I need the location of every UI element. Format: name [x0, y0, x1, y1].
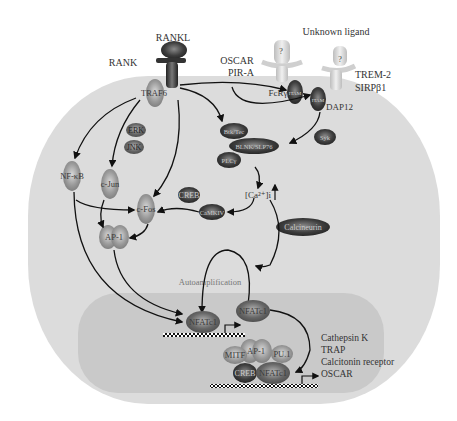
mitf-label: MITF: [225, 350, 246, 360]
sirpb1-label: SIRPβ1: [355, 82, 386, 93]
blnk-slp76-label: BLNK/SLP76: [235, 143, 273, 150]
plcg-label: PLCγ: [222, 157, 237, 164]
rankl-label: RANKL: [156, 32, 190, 43]
calcium-label: [Ca²⁺]i: [245, 190, 271, 200]
nfkb-label: NF-κB: [60, 171, 84, 181]
gene-trap: TRAP: [321, 345, 345, 355]
trem2-label: TREM-2: [355, 69, 391, 80]
oscar-label: OSCAR: [220, 55, 254, 66]
cjun-label: c-Jun: [101, 179, 120, 189]
dna-strand-1: [163, 333, 245, 337]
dna-strand-2: [210, 384, 318, 388]
erk-label: ERK: [128, 126, 144, 135]
question-mark-1: ?: [279, 47, 283, 56]
camkiv-label: CaMKIV: [200, 209, 225, 216]
rank-stem: [166, 62, 178, 88]
itam-label-2: ITAM: [312, 98, 325, 103]
jnk-label: JNK: [127, 143, 142, 152]
calcineurin-label: Calcineurin: [284, 223, 321, 232]
rankl-ligand: [161, 41, 187, 59]
unknown-ligand-label: Unknown ligand: [303, 26, 370, 37]
btk-tec-label: Btk/Tec: [224, 128, 245, 135]
gene-calcitonin-receptor: Calcitonin receptor: [321, 357, 395, 367]
rank-label: RANK: [109, 57, 138, 68]
pathway-diagram: RANKL RANK ? OSCAR PIR-A Unknown ligand …: [0, 0, 457, 421]
pira-label: PIR-A: [228, 67, 255, 78]
creb-nuclear-label: CREB: [235, 369, 256, 378]
pu1-label: PU.1: [273, 349, 290, 359]
ap1-nuclear-label: AP-1: [247, 346, 265, 356]
traf6-label: TRAF6: [141, 88, 167, 98]
itam-label-1: ITAM: [289, 91, 302, 96]
autoamplification-label: Autoamplification: [179, 277, 242, 287]
dap12-label: DAP12: [326, 102, 353, 112]
gene-cathepsin-k: Cathepsin K: [321, 333, 368, 343]
nfatc1-label-1: NFATc1: [189, 317, 217, 327]
nfatc1-label-3: NFATc1: [259, 368, 287, 378]
syk-label: Syk: [320, 134, 331, 141]
cfos-label: c-Fos: [137, 204, 156, 214]
question-mark-2: ?: [338, 55, 342, 64]
creb-label: CREB: [179, 191, 200, 200]
nfatc1-label-2: NFATc1: [239, 306, 267, 316]
gene-oscar: OSCAR: [321, 369, 353, 379]
ap1-label: AP-1: [105, 232, 123, 242]
